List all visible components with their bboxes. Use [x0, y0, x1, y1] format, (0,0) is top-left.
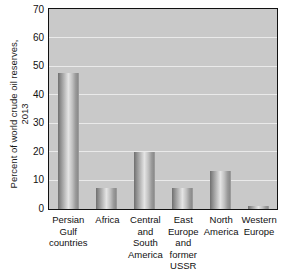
- bar-slot: [163, 9, 201, 209]
- y-axis-tick-label: 20: [20, 147, 44, 157]
- x-axis-category-label: PersianGulfcountries: [48, 214, 89, 249]
- plot-area: [48, 8, 278, 210]
- bar[interactable]: [96, 188, 117, 209]
- x-axis-label-line: America: [203, 226, 239, 238]
- bar[interactable]: [58, 73, 79, 209]
- x-axis-category-label: NorthAmerica: [202, 214, 240, 237]
- bar-slot: [49, 9, 87, 209]
- x-axis-category-labels: PersianGulfcountriesAfricaCentralandSout…: [48, 214, 278, 276]
- bar[interactable]: [248, 206, 269, 209]
- x-axis-label-line: Gulf: [49, 226, 88, 238]
- y-axis-tick-labels: 010203040506070: [20, 0, 44, 276]
- bar[interactable]: [210, 171, 231, 209]
- x-axis-label-line: East: [165, 214, 201, 226]
- x-axis-label-line: North: [203, 214, 239, 226]
- bar[interactable]: [134, 152, 155, 209]
- x-axis-label-line: Persian: [49, 214, 88, 226]
- x-axis-label-line: Central: [127, 214, 163, 226]
- y-axis-title-line-1: Percent of world crude oil reserves,: [8, 40, 20, 189]
- x-axis-label-line: Africa: [90, 214, 126, 226]
- x-axis-category-label: EastEuropeandformerUSSR: [164, 214, 202, 272]
- x-axis-category-label: CentralandSouthAmerica: [126, 214, 164, 260]
- bar-slot: [87, 9, 125, 209]
- x-axis-label-line: Europe: [165, 226, 201, 238]
- y-axis-tick-label: 40: [20, 90, 44, 100]
- x-axis-label-line: America: [127, 249, 163, 261]
- x-axis-category-label: Africa: [89, 214, 127, 226]
- y-axis-tick-label: 10: [20, 175, 44, 185]
- x-axis-label-line: South: [127, 237, 163, 249]
- bar[interactable]: [172, 188, 193, 209]
- x-axis-label-line: and: [165, 237, 201, 249]
- bar-slot: [125, 9, 163, 209]
- y-axis-tick-label: 50: [20, 61, 44, 71]
- y-axis-tick-label: 30: [20, 118, 44, 128]
- y-axis-tick-label: 70: [20, 5, 44, 15]
- x-axis-category-label: WesternEurope: [240, 214, 278, 237]
- bar-slot: [201, 9, 239, 209]
- y-axis-tick-label: 60: [20, 33, 44, 43]
- x-axis-label-line: and: [127, 226, 163, 238]
- y-axis-tick-label: 0: [20, 204, 44, 214]
- bars-layer: [49, 9, 277, 209]
- x-axis-label-line: Western: [241, 214, 277, 226]
- x-axis-label-line: Europe: [241, 226, 277, 238]
- x-axis-label-line: USSR: [165, 260, 201, 272]
- x-axis-label-line: former: [165, 249, 201, 261]
- x-axis-label-line: countries: [49, 237, 88, 249]
- bar-slot: [239, 9, 277, 209]
- bar-chart: Percent of world crude oil reserves, 201…: [0, 0, 290, 276]
